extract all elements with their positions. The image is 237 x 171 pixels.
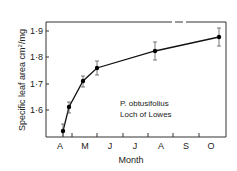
y-tick-label: 1·9 [30,26,43,36]
data-point [95,66,99,70]
data-point [67,105,71,109]
y-tick-label: 1·8 [30,52,43,62]
x-ticks [63,133,199,137]
y-axis-label-main: Specific leaf area cm [17,47,27,131]
y-tick-label: 1·7 [30,79,43,89]
x-tick-labels: A M J J A S O [57,141,215,151]
x-tick-label: S [183,141,189,151]
error-bars [61,28,221,137]
y-tick-labels: 1·9 1·8 1·7 1·6 [30,26,43,115]
x-axis-label: Month [118,155,143,165]
x-tick-label: A [57,141,63,151]
x-tick-label: J [108,141,113,151]
annotation-location: Loch of Lowes [120,110,172,119]
plot-frame [46,22,226,137]
x-tick-label: O [207,141,214,151]
data-point [61,129,65,133]
y-axis-label-tail: /mg [17,29,27,44]
x-tick-label: A [158,141,164,151]
x-tick-label: J [133,141,138,151]
x-tick-label: M [81,141,89,151]
y-tick-label: 1·6 [30,105,43,115]
y-axis-label: Specific leaf area cm2/mg [17,29,27,131]
data-point [153,49,157,53]
data-point [217,35,221,39]
annotation-species: P. obtusifolius [120,99,169,108]
data-point [81,79,85,83]
chart: 1·9 1·8 1·7 1·6 A M J J A S O Month Spec… [0,0,237,171]
